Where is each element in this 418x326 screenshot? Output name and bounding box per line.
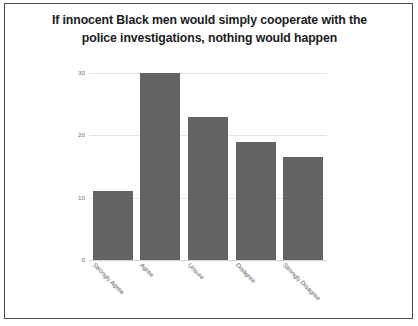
bar: [283, 157, 323, 260]
bar: [188, 117, 228, 260]
bar: [140, 73, 180, 260]
y-axis-tick-label: 10: [78, 195, 85, 201]
x-axis: Strongly AgreeAgreeUnsureDisagreeStrongl…: [89, 262, 327, 319]
x-axis-tick-label: Disagree: [234, 262, 256, 284]
x-axis-tick-label: Unsure: [187, 262, 206, 281]
y-axis-tick-label: 0: [82, 257, 85, 263]
x-axis-tick-label: Agree: [139, 262, 155, 278]
bar-series: [89, 73, 327, 260]
x-axis-tick-label: Strongly Disagree: [282, 262, 322, 302]
chart-title-line-1: If innocent Black men would simply coope…: [19, 12, 400, 30]
plot-area: 0102030: [89, 73, 327, 260]
chart-title: If innocent Black men would simply coope…: [19, 12, 400, 47]
slide-card: If innocent Black men would simply coope…: [4, 3, 413, 319]
y-axis-tick-label: 30: [78, 70, 85, 76]
gridline-0: [89, 260, 327, 261]
bar: [93, 191, 133, 260]
x-axis-tick-label: Strongly Agree: [91, 262, 125, 296]
bar: [236, 142, 276, 260]
chart-title-line-2: police investigations, nothing would hap…: [19, 30, 400, 48]
y-axis-tick-label: 20: [78, 132, 85, 138]
